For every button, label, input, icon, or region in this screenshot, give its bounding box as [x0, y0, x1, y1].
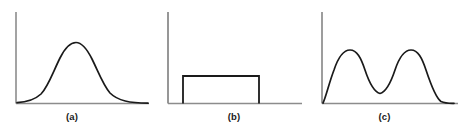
panel-b-uniform-block: [183, 76, 259, 104]
panel-a: (a): [0, 0, 156, 133]
figure-container: (a) (b) (c): [0, 0, 467, 133]
panel-c: (c): [308, 0, 467, 133]
panel-b: (b): [156, 0, 308, 133]
panel-c-curve: [323, 50, 454, 103]
panel-b-caption: (b): [158, 111, 310, 122]
panel-c-caption: (c): [305, 111, 464, 122]
panel-a-curve: [17, 43, 148, 104]
panel-a-caption: (a): [0, 111, 150, 122]
